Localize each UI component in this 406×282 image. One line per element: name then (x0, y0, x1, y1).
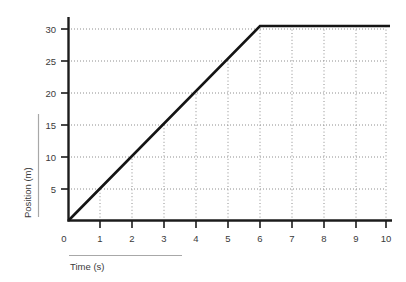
x-tick-label-8: 8 (321, 233, 326, 244)
x-tick-label-9: 9 (353, 233, 358, 244)
chart-canvas: 30 25 20 15 10 5 0 1 2 3 4 5 6 7 8 9 10 … (0, 0, 406, 282)
x-tick-label-5: 5 (225, 233, 230, 244)
y-tick-label-20: 20 (45, 88, 56, 99)
y-axis-title: Position (m) (22, 167, 33, 218)
x-tick-label-3: 3 (161, 233, 166, 244)
y-tick-label-25: 25 (45, 56, 56, 67)
x-tick-label-4: 4 (193, 233, 198, 244)
x-tick-label-1: 1 (97, 233, 102, 244)
x-axis-title: Time (s) (70, 261, 104, 272)
y-tick-label-5: 5 (51, 184, 56, 195)
y-tick-label-30: 30 (45, 24, 56, 35)
x-tick-label-0: 0 (61, 233, 66, 244)
x-tick-label-7: 7 (289, 233, 294, 244)
y-tick-label-15: 15 (45, 120, 56, 131)
position-time-chart: 30 25 20 15 10 5 0 1 2 3 4 5 6 7 8 9 10 … (0, 0, 406, 282)
x-tick-label-2: 2 (129, 233, 134, 244)
y-tick-label-10: 10 (45, 152, 56, 163)
x-tick-label-6: 6 (257, 233, 262, 244)
x-tick-label-10: 10 (381, 233, 392, 244)
